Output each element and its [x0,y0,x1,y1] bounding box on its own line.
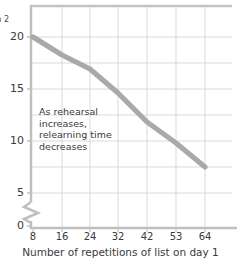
x-tick-label-8: 8 [20,231,46,242]
y-tick-label-20: 20 [2,31,24,42]
x-tick-label-53: 53 [163,231,189,242]
x-tick-label-16: 16 [49,231,75,242]
y-tick-label-0: 0 [2,220,24,231]
x-tick-label-32: 32 [105,231,131,242]
y-tick-label-10: 10 [2,135,24,146]
y-tick-label-5: 5 [2,187,24,198]
x-tick-label-42: 42 [134,231,160,242]
x-axis-caption: Number of repetitions of list on day 1 [0,246,241,258]
x-tick-label-24: 24 [77,231,103,242]
chart-annotation: As rehearsal increases, relearning time … [39,106,112,152]
plot-canvas [0,0,241,265]
x-tick-label-64: 64 [192,231,218,242]
y-tick-label-15: 15 [2,83,24,94]
y-axis-label-text: s n 2 [0,14,9,25]
chart-figure: s n 2 [0,0,241,265]
